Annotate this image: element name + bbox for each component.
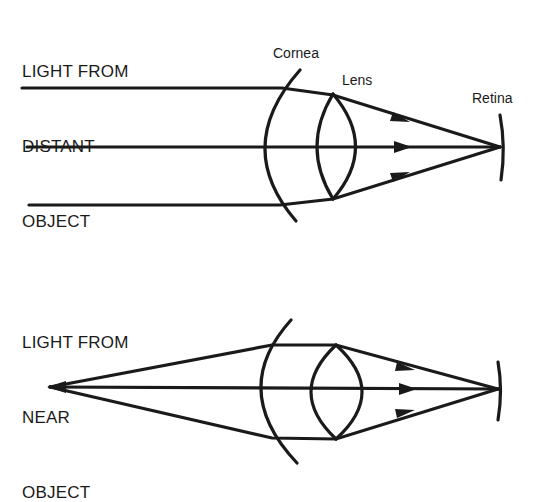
bottom-cornea-arc [261,320,297,463]
bottom-caption-line-3: OBJECT [22,480,129,502]
bottom-lens-right-surface [336,345,362,439]
bottom-panel [47,320,501,463]
top-upper-ray [22,88,500,147]
bottom-middle-arrow-icon [399,383,417,395]
bottom-retina [498,362,501,420]
near-object-point [47,381,66,393]
top-middle-arrow-icon [394,141,412,153]
top-panel [22,70,503,221]
bottom-upper-ray [50,345,498,389]
bottom-lens-left-surface [311,345,336,439]
bottom-middle-ray [50,387,498,389]
